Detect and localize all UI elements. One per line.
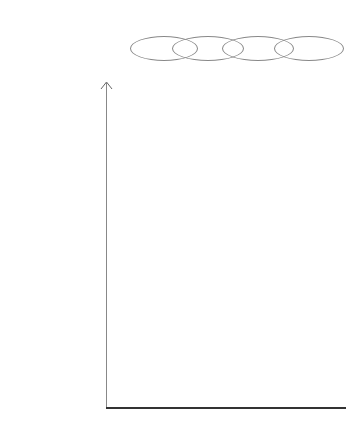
arrow-up-icon — [100, 80, 113, 90]
x-axis — [106, 407, 346, 409]
y-axis — [106, 83, 107, 409]
ellipse-nondual — [274, 36, 344, 61]
